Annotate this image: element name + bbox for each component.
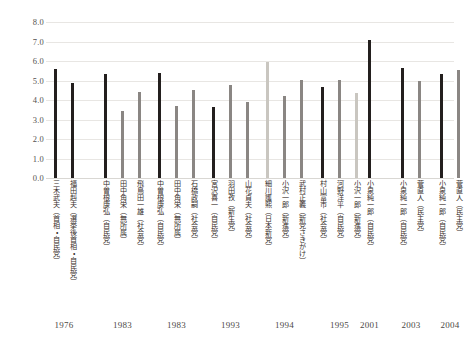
bar [212,107,215,178]
gridline-4.0 [46,100,454,101]
bar-label: 河野洋平（自民党） [336,180,344,243]
x-axis-years: 197619831983199319941995200120032004 [46,320,454,340]
bar [71,83,74,178]
year-label: 1983 [113,320,132,330]
bar-label: 小沢一郎（新進党） [281,180,289,243]
bar [300,80,303,178]
y-tick-label: 5.0 [10,77,44,86]
bar [338,80,341,178]
bar [229,85,232,178]
year-label: 2003 [401,320,420,330]
bar-label: 石橋政嗣（社会党） [190,180,198,243]
gridline-7.0 [46,42,454,43]
bar [321,87,324,178]
bar-label: 田中角栄（無所属） [119,180,127,243]
y-tick-label: 2.0 [10,135,44,144]
bar-labels: 三木武夫（首相・自民党）福田赳夫（選挙後首相・自民党）中曽根康弘（自民党）田中角… [46,180,454,320]
year-label: 1995 [330,320,349,330]
y-tick-label: 7.0 [10,38,44,47]
y-tick-label: 8.0 [10,18,44,27]
year-label: 1983 [167,320,186,330]
bar-label: 武村正義（新党さきがけ） [298,180,306,264]
bar-label: 菅直人（民主党） [416,180,424,236]
bar-label: 中曽根康弘（自民党） [102,180,110,250]
bar [355,93,358,178]
bar-label: 小沢一郎（新進党） [353,180,361,243]
bar [121,111,124,178]
bar [266,62,269,178]
year-label: 1993 [221,320,240,330]
y-tick-label: 1.0 [10,155,44,164]
gridline-0.0 [46,178,454,179]
bar-label: 細川護熙（日本新党） [264,180,272,250]
y-axis: 8.07.06.05.04.03.02.01.00.0 [0,22,44,178]
bar [158,73,161,178]
bar [175,106,178,178]
bar-label: 山花貞夫（社会党） [244,180,252,243]
bar-label: 村山富市（社会党） [319,180,327,243]
year-label: 2001 [360,320,379,330]
bar [104,74,107,178]
y-tick-label: 4.0 [10,96,44,105]
bar [368,40,371,178]
bar [418,81,421,179]
bar [440,74,443,178]
year-label: 1976 [54,320,73,330]
bar-label: 羽田孜（新生党） [227,180,235,236]
bar [401,68,404,178]
year-label: 2004 [440,320,459,330]
plot-area [46,22,454,178]
bar [283,96,286,178]
bar [457,70,460,178]
bar-label: 中曽根康弘（自民党） [156,180,164,250]
y-tick-label: 6.0 [10,57,44,66]
bar-label: 飛鳥田一雄（社会党） [136,180,144,250]
bar-label: 菅直人（民主党） [455,180,463,236]
gridline-1.0 [46,159,454,160]
bar-label: 小泉純一郎（自民党） [366,180,374,250]
gridline-5.0 [46,81,454,82]
bar-label: 田中角栄（無所属） [173,180,181,243]
bar [246,102,249,178]
year-label: 1994 [275,320,294,330]
bar-label: 小泉純一郎（自民党） [438,180,446,250]
bar-label: 福田赳夫（選挙後首相・自民党） [69,180,77,285]
bar-label: 宮沢喜一（自民党） [210,180,218,243]
bar [54,69,57,178]
bar-label: 三木武夫（首相・自民党） [52,180,60,264]
bar [138,92,141,178]
gridline-8.0 [46,22,454,23]
gridline-3.0 [46,120,454,121]
y-tick-label: 3.0 [10,116,44,125]
gridline-2.0 [46,139,454,140]
gridline-6.0 [46,61,454,62]
bar [192,90,195,178]
bar-label: 小泉純一郎（自民党） [399,180,407,250]
y-tick-label: 0.0 [10,174,44,183]
